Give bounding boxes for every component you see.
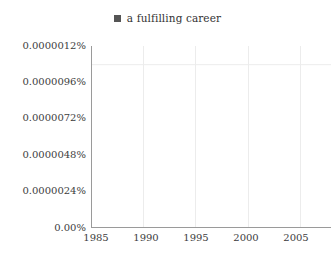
ngram-chart: a fulfilling career 0.0000012% 0.0000096… (0, 0, 335, 270)
chart-svg (91, 46, 335, 232)
x-tick-label: 1990 (116, 233, 176, 243)
x-tick-label: 2000 (216, 233, 276, 243)
chart-legend: a fulfilling career (0, 12, 335, 24)
gridlines (91, 46, 331, 228)
legend-swatch-icon (114, 15, 121, 22)
x-tick-label: 1995 (166, 233, 226, 243)
y-tick-label: 0.0000096% (0, 77, 86, 87)
plot-area (91, 46, 331, 228)
legend-label: a fulfilling career (127, 12, 221, 24)
axis-lines (92, 46, 332, 228)
x-tick-label: 2005 (266, 233, 326, 243)
y-tick-label: 0.00% (0, 223, 86, 233)
y-tick-label: 0.0000072% (0, 113, 86, 123)
y-tick-label: 0.0000048% (0, 150, 86, 160)
y-tick-label: 0.0000012% (0, 41, 86, 51)
x-tick-label: 1985 (66, 233, 126, 243)
y-tick-label: 0.0000024% (0, 186, 86, 196)
